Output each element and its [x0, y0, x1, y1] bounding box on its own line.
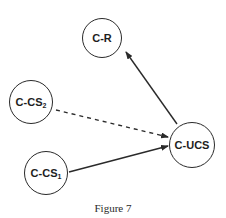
edge-cs1-to-ucs [69, 146, 168, 172]
node-label-c-ucs: C-UCS [175, 139, 210, 151]
figure-caption: Figure 7 [0, 202, 226, 214]
edge-cs2-to-ucs [56, 110, 168, 137]
node-label-c-cs2: C-CS2 [16, 96, 47, 109]
edge-ucs-to-r [126, 52, 177, 124]
node-c-r: C-R [82, 18, 122, 58]
node-c-cs2: C-CS2 [9, 80, 53, 124]
node-c-cs1: C-CS1 [24, 151, 68, 195]
node-label-c-cs1: C-CS1 [31, 167, 62, 180]
node-label-c-r: C-R [92, 32, 112, 44]
node-c-ucs: C-UCS [169, 122, 215, 168]
diagram-canvas: C-R C-CS2 C-CS1 C-UCS Figure 7 [0, 0, 226, 218]
